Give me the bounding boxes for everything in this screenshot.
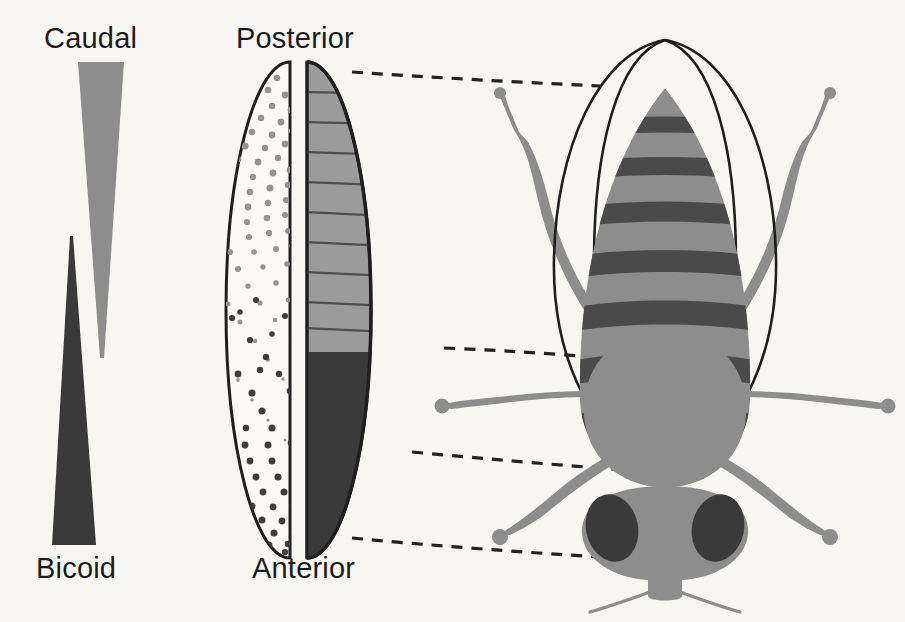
adult-fly-diagram <box>435 40 896 612</box>
diagram-svg <box>0 0 905 622</box>
label-caudal: Caudal <box>44 22 137 55</box>
label-anterior: Anterior <box>252 552 355 585</box>
fly-thorax <box>584 330 746 488</box>
caudal-gradient-wedge <box>78 62 124 358</box>
label-posterior: Posterior <box>236 22 354 55</box>
embryo-diagram <box>177 62 431 562</box>
connector-posterior-to-abdomen-tip <box>352 72 600 86</box>
bicoid-gradient-wedge <box>52 236 96 545</box>
connector-anterior-to-head <box>352 538 618 558</box>
figure-canvas: Caudal Bicoid Posterior Anterior <box>0 0 905 622</box>
embryo-left-half <box>177 62 307 558</box>
embryo-anterior-region <box>305 352 425 562</box>
label-bicoid: Bicoid <box>36 552 116 585</box>
embryo-right-half <box>305 62 430 562</box>
fly-head <box>579 486 750 612</box>
